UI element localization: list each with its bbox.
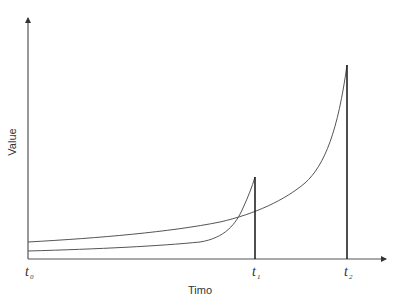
svg-text:2: 2: [349, 273, 353, 281]
tick-t1: t 1: [252, 264, 261, 281]
svg-text:1: 1: [257, 273, 261, 281]
x-axis-label: Timo: [188, 284, 212, 296]
curve-a: [28, 65, 347, 242]
y-axis-label: Value: [6, 128, 18, 155]
svg-text:0: 0: [30, 273, 34, 281]
tick-t2: t 2: [344, 264, 353, 281]
tick-t0: t 0: [25, 264, 34, 281]
chart: Value Timo t 0 t 1 t 2: [0, 0, 399, 305]
